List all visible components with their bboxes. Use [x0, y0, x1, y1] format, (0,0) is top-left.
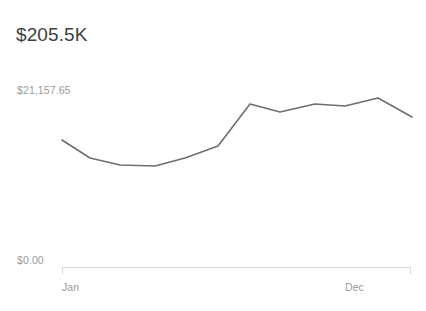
x-axis-start-label: Jan: [62, 281, 79, 294]
x-axis-end-label: Dec: [345, 281, 364, 294]
revenue-line-chart-card: $205.5K $21,157.65 $0.00 Jan Dec: [0, 0, 426, 311]
revenue-series-line: [62, 98, 412, 166]
line-chart-plot: [0, 0, 426, 311]
